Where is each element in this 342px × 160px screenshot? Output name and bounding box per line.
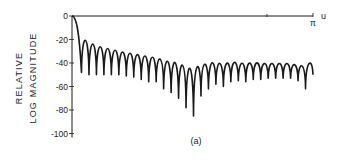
- y-tick-label: -20: [56, 35, 69, 45]
- magnitude-response-curve: [72, 16, 313, 116]
- y-tick-label: 0: [63, 11, 68, 21]
- y-tick-label: -100: [51, 129, 68, 139]
- y-axis-label-line1: RELATIVE: [14, 52, 24, 104]
- y-tick-label: -60: [56, 82, 69, 92]
- log-magnitude-chart: RELATIVE LOG MAGNITUDE 0-20-40-60-80-100…: [0, 0, 342, 160]
- y-axis: 0-20-40-60-80-100: [51, 11, 74, 139]
- y-tick-label: -80: [56, 105, 69, 115]
- x-axis-label-u: u: [321, 11, 327, 21]
- y-tick-label: -40: [56, 58, 69, 68]
- x-end-label-pi: π: [310, 18, 316, 28]
- figure-caption: (a): [191, 136, 202, 146]
- y-axis-label-line2: LOG MAGNITUDE: [28, 32, 38, 123]
- y-axis-title: RELATIVE LOG MAGNITUDE: [14, 32, 38, 123]
